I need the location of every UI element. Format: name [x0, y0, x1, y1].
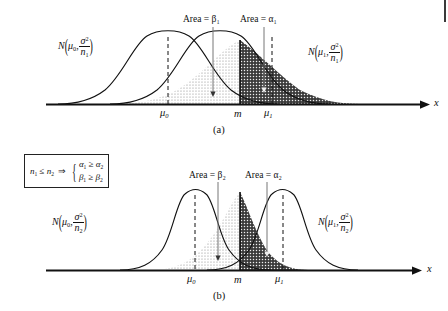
caption-b: (b): [213, 290, 225, 301]
inequality-alpha: α1 ≥ α2: [79, 158, 104, 171]
inequality-box: n1 ≤ n2 ⇒ { α1 ≥ α2 β1 ≥ β2: [24, 154, 109, 188]
figure-root: N(μ0, σ2n1) N(μ1, σ2n1) Area = β₁ Area =…: [0, 0, 448, 311]
axis-label-a: x: [434, 97, 439, 108]
area-label-alpha2: Area = α₂: [245, 170, 282, 180]
panel-a: [46, 27, 430, 109]
shade-beta1: [110, 40, 240, 104]
curve-label-a-alt: N(μ1, σ2n1): [308, 42, 343, 64]
tick-a-mu0: μ0: [160, 107, 169, 119]
panel-b: [46, 182, 422, 275]
axis-b-arrowhead: [412, 266, 422, 274]
axis-a-arrowhead: [420, 100, 430, 108]
area-label-alpha1: Area = α₁: [240, 14, 277, 24]
curve-label-b-alt: N(μ1, σ2n2): [318, 212, 353, 234]
shade-alpha2: [240, 192, 312, 270]
curve-label-a-null: N(μ0, σ2n1): [58, 36, 93, 58]
axis-label-b: x: [427, 263, 432, 274]
caption-a: (a): [213, 124, 225, 135]
implies-icon: ⇒: [56, 166, 69, 176]
tick-a-mu1: μ1: [264, 107, 273, 119]
area-label-beta1: Area = β₁: [183, 14, 220, 24]
tick-a-m: m: [234, 108, 242, 119]
brace-icon: {: [71, 160, 76, 183]
area-label-beta2: Area = β₂: [189, 170, 226, 180]
inequality-beta: β1 ≥ β2: [79, 171, 104, 184]
page-edge-artifact: [444, 0, 446, 22]
tick-b-m: m: [234, 274, 242, 285]
tick-b-mu1: μ1: [275, 273, 284, 285]
inequality-condition: n1 ≤ n2: [30, 166, 54, 177]
curve-label-b-null: N(μ0, σ2n2): [52, 212, 87, 234]
tick-b-mu0: μ0: [187, 273, 196, 285]
